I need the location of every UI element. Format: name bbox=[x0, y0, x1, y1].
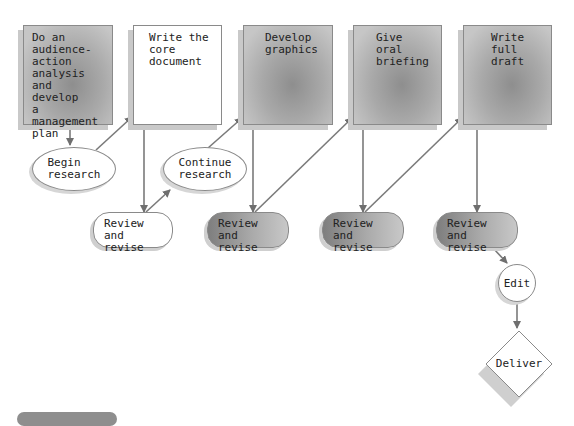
step-oral-briefing[interactable]: Give oral briefing bbox=[353, 25, 442, 125]
review-revise-4[interactable]: Review and revise bbox=[436, 212, 518, 248]
footer-bar bbox=[17, 412, 117, 426]
deliver-label[interactable]: Deliver bbox=[489, 357, 549, 370]
step-develop-graphics[interactable]: Develop graphics bbox=[243, 25, 333, 125]
review-revise-2[interactable]: Review and revise bbox=[207, 212, 289, 248]
review-revise-1[interactable]: Review and revise bbox=[93, 212, 173, 248]
edit-circle[interactable]: Edit bbox=[498, 264, 536, 302]
step-plan[interactable]: Do an audience- action analysis and deve… bbox=[23, 25, 113, 125]
review-revise-3[interactable]: Review and revise bbox=[322, 212, 404, 248]
step-core-document[interactable]: Write the core document bbox=[133, 25, 222, 125]
ellipse-continue-research[interactable]: Continue research bbox=[163, 147, 247, 191]
step-full-draft[interactable]: Write full draft bbox=[463, 25, 552, 125]
ellipse-begin-research[interactable]: Begin research bbox=[32, 147, 116, 191]
